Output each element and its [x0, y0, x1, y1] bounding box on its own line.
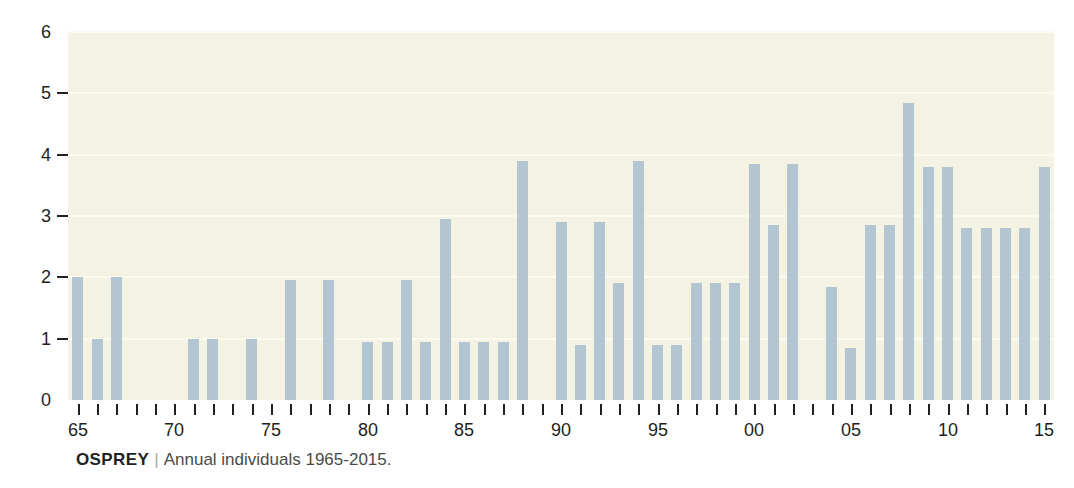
bar-1987[interactable]	[498, 342, 509, 400]
bar-2013[interactable]	[1000, 228, 1011, 400]
bar-2011[interactable]	[961, 228, 972, 400]
bar-2014[interactable]	[1019, 228, 1030, 400]
bar-2006[interactable]	[865, 225, 876, 400]
bar-2015[interactable]	[1039, 167, 1050, 400]
bar-1993[interactable]	[613, 283, 624, 400]
x-tick-1993	[619, 404, 621, 415]
bar-1999[interactable]	[729, 283, 740, 400]
bar-2001[interactable]	[768, 225, 779, 400]
bar-1996[interactable]	[671, 345, 682, 400]
y-tick-3: 3	[6, 207, 68, 225]
x-tick-1994	[638, 404, 640, 415]
x-tick-1989	[542, 404, 544, 415]
bar-1990[interactable]	[556, 222, 567, 400]
x-tick-1975	[271, 404, 273, 415]
bar-1991[interactable]	[575, 345, 586, 400]
bar-1997[interactable]	[691, 283, 702, 400]
x-tick-2006	[870, 404, 872, 415]
caption-species: OSPREY	[76, 450, 149, 469]
x-tick-1978	[329, 404, 331, 415]
x-tick-1979	[348, 404, 350, 415]
y-tick-label: 1	[41, 330, 51, 348]
x-tick-label-15: 15	[1034, 420, 1054, 441]
y-tick-4: 4	[6, 146, 68, 164]
x-tick-2004	[832, 404, 834, 415]
x-tick-2000	[754, 404, 756, 415]
bar-1984[interactable]	[440, 219, 451, 400]
bar-1992[interactable]	[594, 222, 605, 400]
x-tick-1968	[136, 404, 138, 415]
bar-1994[interactable]	[633, 161, 644, 400]
x-tick-1980	[368, 404, 370, 415]
bar-1985[interactable]	[459, 342, 470, 400]
y-tick-2: 2	[6, 268, 68, 286]
bar-1980[interactable]	[362, 342, 373, 400]
x-tick-1987	[503, 404, 505, 415]
y-tick-0: 0	[6, 391, 68, 409]
x-tick-1967	[116, 404, 118, 415]
caption-description: Annual individuals 1965-2015.	[164, 450, 392, 469]
bar-2005[interactable]	[845, 348, 856, 400]
bar-1983[interactable]	[420, 342, 431, 400]
bar-1981[interactable]	[382, 342, 393, 400]
bar-2007[interactable]	[884, 225, 895, 400]
x-tick-1985	[464, 404, 466, 415]
bar-1971[interactable]	[188, 339, 199, 400]
y-tick-label: 2	[41, 268, 51, 286]
bar-1965[interactable]	[72, 277, 83, 400]
x-tick-label-95: 95	[648, 420, 668, 441]
bar-2008[interactable]	[903, 103, 914, 400]
bar-2004[interactable]	[826, 287, 837, 400]
bar-1995[interactable]	[652, 345, 663, 400]
y-tick-mark	[57, 338, 68, 340]
x-tick-1973	[232, 404, 234, 415]
x-tick-1990	[561, 404, 563, 415]
y-tick-label: 0	[41, 391, 51, 409]
x-tick-1969	[155, 404, 157, 415]
x-tick-label-80: 80	[358, 420, 378, 441]
bar-1976[interactable]	[285, 280, 296, 400]
y-tick-label: 6	[41, 23, 51, 41]
y-tick-6: 6	[6, 23, 68, 41]
x-tick-2013	[1006, 404, 1008, 415]
y-tick-label: 3	[41, 207, 51, 225]
bar-1972[interactable]	[207, 339, 218, 400]
x-tick-label-90: 90	[551, 420, 571, 441]
bar-1967[interactable]	[111, 277, 122, 400]
bar-1978[interactable]	[323, 280, 334, 400]
bar-1986[interactable]	[478, 342, 489, 400]
x-tick-2014	[1025, 404, 1027, 415]
bar-2002[interactable]	[787, 164, 798, 400]
x-tick-2001	[774, 404, 776, 415]
y-tick-mark	[57, 31, 68, 33]
x-tick-1997	[696, 404, 698, 415]
x-tick-label-05: 05	[841, 420, 861, 441]
x-tick-2007	[890, 404, 892, 415]
x-tick-2009	[928, 404, 930, 415]
y-tick-5: 5	[6, 84, 68, 102]
x-tick-label-70: 70	[164, 420, 184, 441]
bar-2012[interactable]	[981, 228, 992, 400]
x-tick-1996	[677, 404, 679, 415]
bar-1988[interactable]	[517, 161, 528, 400]
bar-1966[interactable]	[92, 339, 103, 400]
chart-caption: OSPREY|Annual individuals 1965-2015.	[76, 450, 391, 470]
x-tick-1977	[310, 404, 312, 415]
x-tick-2005	[851, 404, 853, 415]
x-tick-2002	[793, 404, 795, 415]
bar-1998[interactable]	[710, 283, 721, 400]
x-tick-1984	[445, 404, 447, 415]
bar-series	[68, 32, 1054, 400]
x-tick-1982	[406, 404, 408, 415]
x-tick-1965	[78, 404, 80, 415]
bar-2009[interactable]	[923, 167, 934, 400]
x-tick-1992	[600, 404, 602, 415]
bar-1982[interactable]	[401, 280, 412, 400]
bar-2000[interactable]	[749, 164, 760, 400]
y-axis: 0123456	[0, 0, 68, 488]
bar-1974[interactable]	[246, 339, 257, 400]
x-tick-label-75: 75	[261, 420, 281, 441]
x-tick-1986	[484, 404, 486, 415]
y-tick-mark	[57, 154, 68, 156]
bar-2010[interactable]	[942, 167, 953, 400]
